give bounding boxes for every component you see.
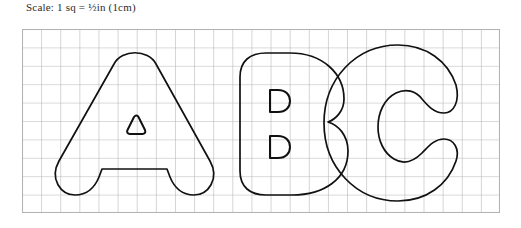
worksheet-page: Scale: 1 sq = ½in (1cm): [0, 0, 521, 228]
scale-caption: Scale: 1 sq = ½in (1cm): [26, 1, 136, 13]
scale-caption-fraction: ½: [88, 1, 96, 13]
graph-paper-grid: [22, 29, 500, 213]
grid-area: [22, 29, 500, 213]
scale-caption-prefix: Scale: 1 sq =: [26, 1, 88, 13]
scale-caption-suffix: in (1cm): [97, 1, 136, 13]
